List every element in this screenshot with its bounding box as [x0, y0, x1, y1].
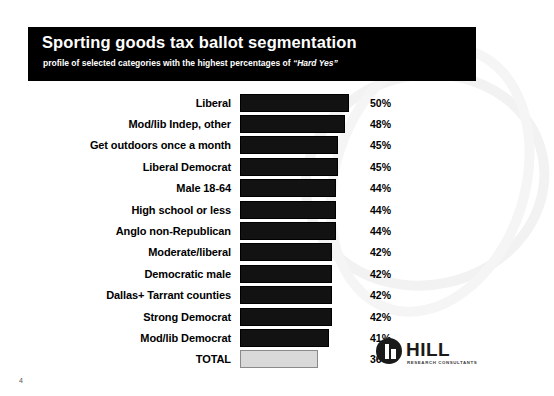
chart-row: Get outdoors once a month45%	[28, 135, 476, 156]
chart-bar-cell	[240, 156, 362, 177]
chart-bar-cell	[240, 113, 362, 134]
chart-bar-cell	[240, 92, 362, 113]
hill-logo-mark-arm-icon	[391, 349, 396, 359]
chart-row: Liberal50%	[28, 92, 476, 113]
bar-chart: Liberal50%Mod/lib Indep, other48%Get out…	[28, 92, 476, 372]
hill-logo-wordmark: HILL	[406, 339, 450, 361]
chart-bar-cell	[240, 306, 362, 327]
chart-bar	[240, 136, 338, 154]
chart-bar-cell	[240, 327, 362, 348]
chart-row-label: Liberal	[28, 97, 240, 109]
chart-bar	[240, 243, 332, 261]
chart-bar	[240, 158, 338, 176]
hill-logo-mark-icon	[376, 338, 402, 364]
chart-bar	[240, 179, 336, 197]
chart-bar-cell	[240, 220, 362, 241]
chart-bar	[240, 329, 329, 347]
chart-row: Democratic male42%	[28, 263, 476, 284]
chart-bar-cell	[240, 178, 362, 199]
chart-bar-cell	[240, 285, 362, 306]
chart-value-label: 48%	[362, 118, 391, 130]
chart-value-label: 44%	[362, 225, 391, 237]
chart-row-label: Democratic male	[28, 268, 240, 280]
chart-value-label: 45%	[362, 139, 391, 151]
chart-row-label: Strong Democrat	[28, 311, 240, 323]
chart-row-label: Moderate/liberal	[28, 246, 240, 258]
chart-value-label: 45%	[362, 161, 391, 173]
chart-bar	[240, 115, 345, 133]
chart-row-label: Male 18-64	[28, 182, 240, 194]
chart-row-label: Mod/lib Indep, other	[28, 118, 240, 130]
chart-row-label: TOTAL	[28, 353, 240, 365]
hill-logo: HILL RESEARCH CONSULTANTS	[376, 338, 480, 372]
chart-bar	[240, 350, 318, 368]
chart-value-label: 42%	[362, 268, 391, 280]
header-band: Sporting goods tax ballot segmentation p…	[28, 27, 476, 81]
chart-row: Moderate/liberal42%	[28, 242, 476, 263]
chart-row: Anglo non-Republican44%	[28, 220, 476, 241]
chart-row: Male 18-6444%	[28, 178, 476, 199]
chart-bar	[240, 222, 336, 240]
chart-value-label: 42%	[362, 311, 391, 323]
chart-row: High school or less44%	[28, 199, 476, 220]
chart-bar	[240, 94, 349, 112]
chart-bar-cell	[240, 135, 362, 156]
chart-bar	[240, 308, 332, 326]
chart-row-label: Mod/lib Democrat	[28, 332, 240, 344]
chart-row: Mod/lib Indep, other48%	[28, 113, 476, 134]
chart-value-label: 42%	[362, 289, 391, 301]
chart-bar	[240, 265, 332, 283]
chart-value-label: 50%	[362, 97, 391, 109]
chart-bar	[240, 286, 332, 304]
chart-value-label: 44%	[362, 182, 391, 194]
page-subtitle: profile of selected categories with the …	[43, 58, 338, 68]
chart-row-label: Anglo non-Republican	[28, 225, 240, 237]
chart-row: Liberal Democrat45%	[28, 156, 476, 177]
chart-value-label: 42%	[362, 246, 391, 258]
chart-bar-cell	[240, 349, 362, 370]
chart-bar-cell	[240, 199, 362, 220]
page-subtitle-quoted: “Hard Yes”	[293, 58, 338, 68]
chart-row-label: Dallas+ Tarrant counties	[28, 289, 240, 301]
page-title: Sporting goods tax ballot segmentation	[42, 33, 357, 52]
hill-logo-mark-stem-icon	[385, 344, 389, 359]
chart-row-label: Liberal Democrat	[28, 161, 240, 173]
chart-row: Strong Democrat42%	[28, 306, 476, 327]
chart-row-label: High school or less	[28, 204, 240, 216]
page-number: 4	[19, 377, 23, 384]
hill-logo-tagline: RESEARCH CONSULTANTS	[407, 360, 477, 365]
chart-bar-cell	[240, 263, 362, 284]
page-subtitle-prefix: profile of selected categories with the …	[43, 58, 293, 68]
chart-bar-cell	[240, 242, 362, 263]
chart-row-label: Get outdoors once a month	[28, 139, 240, 151]
chart-bar	[240, 201, 336, 219]
chart-row: Dallas+ Tarrant counties42%	[28, 285, 476, 306]
chart-value-label: 44%	[362, 204, 391, 216]
